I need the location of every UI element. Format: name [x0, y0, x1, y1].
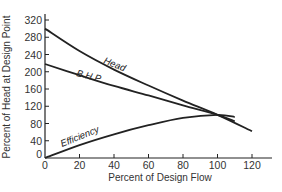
y-tick-label: 120: [24, 100, 42, 112]
pump-performance-chart: 04080120160200240280320 020406080100120 …: [0, 0, 282, 192]
y-tick-label: 40: [30, 135, 42, 147]
y-tick-label: 200: [24, 66, 42, 78]
y-tick-label: 280: [24, 31, 42, 43]
y-axis-title: Percent of Head at Design Point: [1, 15, 12, 158]
y-tick-label: 320: [24, 14, 42, 26]
x-axis-ticks: 020406080100120: [42, 154, 261, 171]
y-tick-label: 160: [24, 83, 42, 95]
x-tick-label: 120: [243, 159, 261, 171]
x-tick-label: 20: [74, 159, 86, 171]
x-axis-title: Percent of Design Flow: [108, 172, 212, 183]
x-tick-label: 0: [42, 159, 48, 171]
x-tick-label: 80: [177, 159, 189, 171]
y-tick-label: 240: [24, 49, 42, 61]
y-tick-label: 80: [30, 118, 42, 130]
x-tick-label: 40: [108, 159, 120, 171]
bhp-curve: [45, 64, 235, 121]
x-tick-label: 60: [143, 159, 155, 171]
x-tick-label: 100: [209, 159, 227, 171]
bhp-label: B.H.P: [76, 67, 103, 84]
